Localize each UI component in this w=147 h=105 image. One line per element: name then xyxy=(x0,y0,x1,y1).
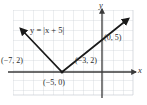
equation-text: y = |x + 5| xyxy=(30,25,64,35)
point-label-neg7-2: (−7, 2) xyxy=(1,57,23,65)
vertex-point xyxy=(61,71,64,74)
point-label-neg5-0: (−5, 0) xyxy=(43,79,65,87)
point-label-0-5: (0, 5) xyxy=(104,34,121,42)
plotted-points xyxy=(61,71,64,74)
y-axis-label: y xyxy=(99,1,103,10)
x-axis-label: x xyxy=(138,66,142,75)
point-label-neg3-2: (−3, 2) xyxy=(75,57,97,65)
coordinate-plane-svg xyxy=(0,0,147,105)
grid-background xyxy=(13,10,133,95)
equation-label: y = |x + 5| xyxy=(30,26,64,35)
graph-figure: y = |x + 5| (0, 5) (−7, 2) (−3, 2) (−5, … xyxy=(0,0,147,105)
